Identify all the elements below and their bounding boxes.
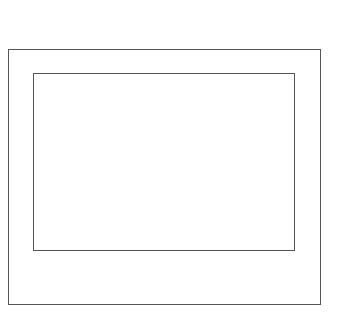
inner-rectangle	[33, 73, 295, 251]
